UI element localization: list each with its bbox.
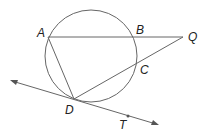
segment-ad xyxy=(48,37,74,99)
label-t: T xyxy=(119,119,126,131)
tangent-line xyxy=(12,81,156,124)
circle xyxy=(45,10,137,102)
segment-dq xyxy=(74,37,183,99)
arrow-left-icon xyxy=(10,80,18,85)
label-d: D xyxy=(65,104,74,116)
geometry-figure xyxy=(0,0,210,133)
label-q: Q xyxy=(188,31,197,43)
arrow-right-icon xyxy=(151,120,159,125)
label-b: B xyxy=(136,24,144,36)
label-c: C xyxy=(140,64,149,76)
point-t xyxy=(127,115,130,118)
label-a: A xyxy=(37,27,45,39)
